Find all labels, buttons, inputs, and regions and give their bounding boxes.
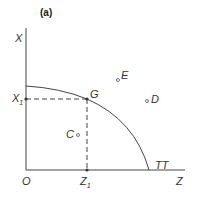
z1-dot: [85, 168, 88, 171]
point-c-marker: [77, 134, 80, 137]
point-g-label: G: [90, 89, 99, 100]
point-e-marker: [117, 79, 120, 82]
x-axis-label: Z: [176, 176, 183, 187]
y-axis-label: X: [15, 33, 22, 44]
z1-label: Z1: [80, 176, 91, 189]
g-dot: [85, 97, 88, 100]
x1-dot: [24, 97, 27, 100]
point-c-label: C: [66, 129, 74, 140]
point-d-label: D: [151, 94, 159, 105]
point-d-marker: [146, 100, 149, 103]
panel-title: (a): [40, 8, 52, 18]
origin-label: O: [22, 176, 31, 187]
x1-label: X1: [12, 93, 23, 106]
curve-label-tt: TT: [155, 160, 168, 171]
point-e-label: E: [121, 70, 128, 81]
